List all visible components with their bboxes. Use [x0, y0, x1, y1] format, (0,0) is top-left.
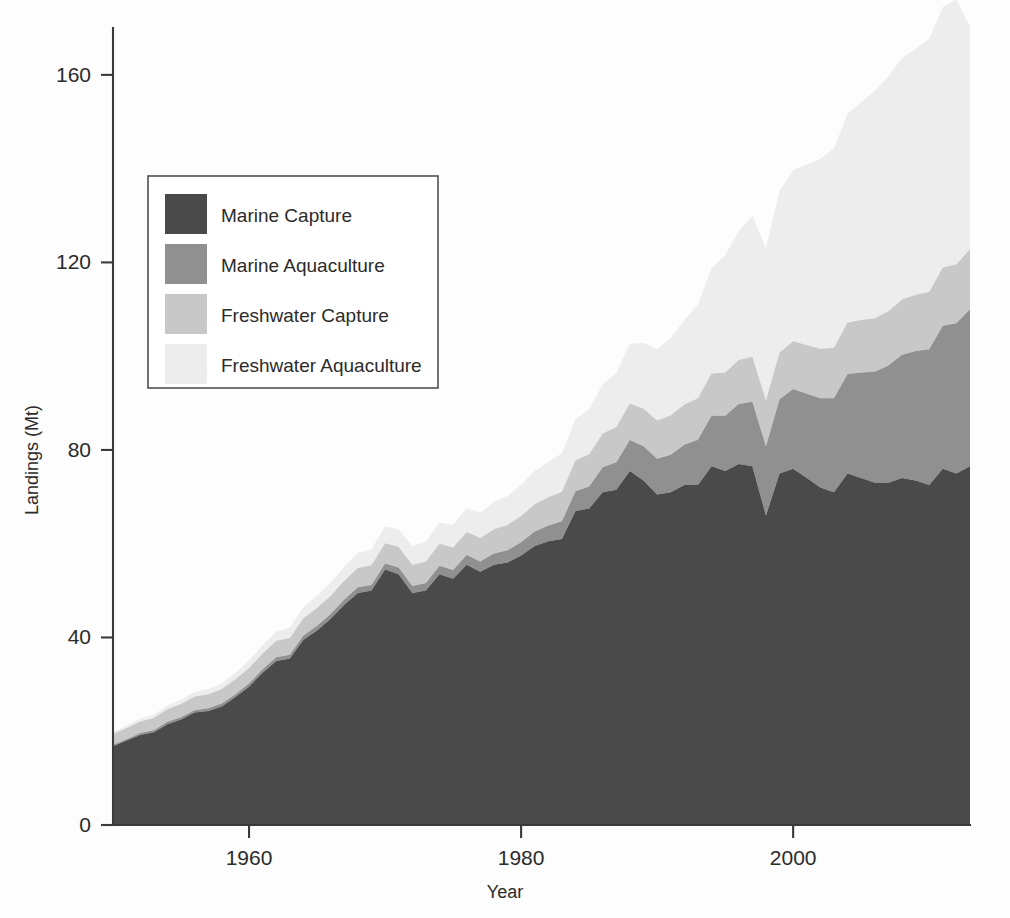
area-series-group: [113, 0, 970, 825]
x-tick-label: 1960: [226, 846, 273, 869]
legend-swatch-1: [165, 244, 207, 284]
y-tick-label: 160: [56, 63, 91, 86]
y-tick-label: 40: [68, 625, 91, 648]
x-tick-label: 1980: [498, 846, 545, 869]
legend-label-3: Freshwater Aquaculture: [221, 355, 422, 376]
legend-label-0: Marine Capture: [221, 205, 352, 226]
legend-swatch-3: [165, 344, 207, 384]
x-axis-title: Year: [487, 882, 523, 902]
legend-swatch-0: [165, 194, 207, 234]
legend-label-2: Freshwater Capture: [221, 305, 389, 326]
y-tick-label: 120: [56, 250, 91, 273]
chart-container: 04080120160196019802000 Marine CaptureMa…: [0, 0, 1010, 918]
legend-label-1: Marine Aquaculture: [221, 255, 385, 276]
chart-legend: Marine CaptureMarine AquacultureFreshwat…: [148, 176, 438, 388]
stacked-area-chart: 04080120160196019802000 Marine CaptureMa…: [0, 0, 1010, 918]
legend-swatch-2: [165, 294, 207, 334]
y-axis-title: Landings (Mt): [22, 405, 42, 515]
y-tick-label: 0: [79, 813, 91, 836]
y-tick-label: 80: [68, 438, 91, 461]
x-tick-label: 2000: [770, 846, 817, 869]
